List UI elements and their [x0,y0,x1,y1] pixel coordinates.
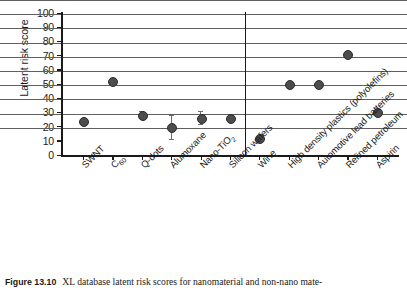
data-point [314,80,324,90]
data-point [138,111,148,121]
y-axis-line [61,12,63,156]
x-axis-category-label: SWNT [80,143,107,170]
figure-caption: Figure 13.10XL database latent risk scor… [5,276,405,288]
chart-canvas: Latent risk score 1009080706050403020100… [0,0,407,256]
y-axis-tick-label: 10 [28,136,54,147]
data-point [285,80,295,90]
data-point [343,50,353,60]
data-point [167,123,177,133]
data-point [226,114,236,124]
figure-container: Latent risk score 1009080706050403020100… [0,0,407,301]
x-axis-category-label: Q-dots [139,143,166,170]
error-bar-cap [169,139,174,140]
error-bar-cap [198,111,203,112]
data-point [79,117,89,127]
x-axis-category-label: Aspirin [374,143,401,170]
category-divider-line [245,12,246,156]
figure-caption-text: XL database latent risk scores for nanom… [62,276,322,287]
figure-number: Figure 13.10 [5,277,56,287]
data-point [197,114,207,124]
gridline [0,0,407,1]
y-axis-tick-label: 0 [28,150,54,161]
x-axis-category-label: Wine [256,148,278,170]
error-bar-cap [169,115,174,116]
